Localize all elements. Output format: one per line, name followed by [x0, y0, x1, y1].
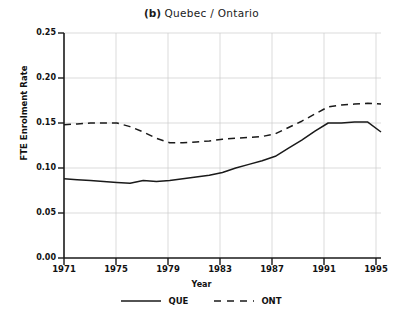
legend-label-ont: ONT [261, 296, 281, 306]
legend-label-que: QUE [168, 296, 188, 306]
series-line-que [64, 122, 381, 183]
gridlines [64, 33, 381, 258]
plot-area [0, 0, 403, 317]
legend-swatch-solid [121, 296, 161, 306]
legend-item-ont: ONT [214, 296, 281, 306]
axis-spines [64, 33, 381, 258]
axis-ticks [58, 33, 376, 265]
legend-swatch-dashed [214, 296, 254, 306]
legend-item-que: QUE [121, 296, 188, 306]
chart-legend: QUE ONT [0, 296, 403, 306]
chart-figure: (b) Quebec / Ontario FTE Enrolment Rate … [0, 0, 403, 317]
